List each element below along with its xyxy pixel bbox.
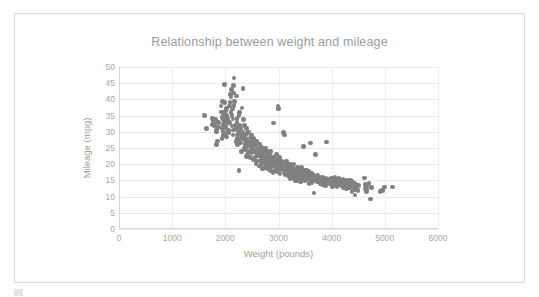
scatter-point (215, 139, 220, 144)
x-axis-title: Weight (pounds) (119, 248, 438, 259)
scatter-point (204, 126, 209, 131)
scatter-point (232, 99, 237, 104)
scatter-point (237, 168, 242, 173)
scatter-point (368, 197, 373, 202)
caption-strip (14, 288, 214, 297)
scatter-point (356, 188, 361, 193)
scatter-point (241, 117, 246, 122)
scatter-point (231, 83, 236, 88)
y-axis-tick-label: 0 (110, 224, 115, 234)
scatter-point (301, 144, 306, 149)
scatter-point (232, 76, 237, 81)
scatter-point (240, 106, 245, 111)
chart-frame: Relationship between weight and mileage … (14, 13, 525, 283)
y-axis-tick-label: 50 (106, 62, 115, 72)
scatter-point (237, 110, 242, 115)
scatter-point (241, 86, 246, 91)
y-axis-tick-label: 35 (106, 111, 115, 121)
x-axis-tick-label: 0 (117, 233, 122, 243)
y-axis-tick-label: 5 (110, 208, 115, 218)
x-axis-tick-label: 5000 (375, 233, 394, 243)
scatter-point (222, 82, 227, 87)
scatter-point (271, 121, 276, 126)
scatter-point (232, 103, 237, 108)
scatter-point (324, 140, 329, 145)
scatter-point (222, 100, 227, 105)
x-axis-tick-label: 2000 (216, 233, 235, 243)
scatter-point (214, 142, 219, 147)
y-axis-tick-label: 40 (106, 94, 115, 104)
plot-area (119, 67, 438, 229)
x-axis-tick-labels: 0100020003000400050006000 (119, 233, 438, 247)
y-axis-title: Mileage (mpg) (81, 118, 92, 179)
scatter-point (202, 113, 207, 118)
x-axis-tick-label: 4000 (322, 233, 341, 243)
chart-title: Relationship between weight and mileage (15, 35, 524, 49)
scatter-point (234, 94, 239, 99)
x-axis-tick-label: 3000 (269, 233, 288, 243)
scatter-point (382, 185, 387, 190)
scatter-point (282, 133, 287, 138)
scatter-point (362, 176, 367, 181)
scatter-point (312, 191, 317, 196)
y-axis-tick-label: 10 (106, 192, 115, 202)
y-axis-tick-label: 15 (106, 175, 115, 185)
scatter-point (353, 193, 358, 198)
caption-swatch (14, 289, 23, 296)
gridline-vertical (438, 67, 439, 229)
scatter-point (313, 152, 318, 157)
y-axis-tick-label: 25 (106, 143, 115, 153)
scatter-point (269, 149, 274, 154)
gridline-horizontal (119, 229, 438, 230)
y-axis-tick-label: 20 (106, 159, 115, 169)
scatter-point (308, 141, 313, 146)
scatter-series (119, 67, 438, 229)
scatter-point (276, 106, 281, 111)
x-axis-tick-label: 6000 (429, 233, 448, 243)
x-axis-tick-label: 1000 (163, 233, 182, 243)
y-axis-tick-label: 30 (106, 127, 115, 137)
y-axis-tick-labels: 05101520253035404550 (99, 67, 115, 229)
scatter-point (356, 183, 361, 188)
y-axis-tick-label: 45 (106, 78, 115, 88)
scatter-point (369, 185, 374, 190)
scatter-point (390, 185, 395, 190)
scatter-point (224, 135, 229, 140)
